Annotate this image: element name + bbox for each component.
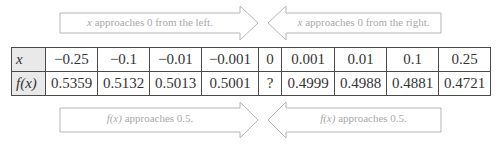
arrow-text: approaches 0.5. xyxy=(335,112,406,124)
arrow-label-fx-right: f(x) approaches 0.5. xyxy=(286,112,441,124)
table-row-x: x −0.25 −0.1 −0.01 −0.001 0 0.001 0.01 0… xyxy=(12,48,491,72)
x-cell: −0.1 xyxy=(98,48,150,72)
fx-cell: 0.5013 xyxy=(150,72,202,96)
arrow-text: approaches 0 from the left. xyxy=(92,16,213,28)
x-cell: −0.001 xyxy=(202,48,259,72)
x-cell: 0 xyxy=(259,48,282,72)
x-cell: −0.25 xyxy=(46,48,98,72)
fx-cell: 0.4999 xyxy=(282,72,335,96)
arrow-label-x-right: x approaches 0 from the right. xyxy=(286,16,441,28)
arrow-text: approaches 0.5. xyxy=(122,112,193,124)
arrow-label-x-left: x approaches 0 from the left. xyxy=(60,16,240,28)
fx-cell: 0.4988 xyxy=(335,72,387,96)
fx-cell: 0.4721 xyxy=(439,72,491,96)
variable-fx: f(x) xyxy=(107,112,122,124)
fx-cell: 0.5359 xyxy=(46,72,98,96)
arrow-label-fx-left: f(x) approaches 0.5. xyxy=(60,112,240,124)
values-table: x −0.25 −0.1 −0.01 −0.001 0 0.001 0.01 0… xyxy=(11,47,491,96)
x-cell: 0.25 xyxy=(439,48,491,72)
fx-cell: 0.5001 xyxy=(202,72,259,96)
table-row-fx: f(x) 0.5359 0.5132 0.5013 0.5001 ? 0.499… xyxy=(12,72,491,96)
x-cell: 0.01 xyxy=(335,48,387,72)
row-header-x: x xyxy=(12,48,46,72)
x-cell: −0.01 xyxy=(150,48,202,72)
x-cell: 0.001 xyxy=(282,48,335,72)
x-cell: 0.1 xyxy=(387,48,439,72)
row-header-fx: f(x) xyxy=(12,72,46,96)
fx-cell: 0.5132 xyxy=(98,72,150,96)
fx-cell: ? xyxy=(259,72,282,96)
arrow-text: approaches 0 from the right. xyxy=(302,16,429,28)
fx-cell: 0.4881 xyxy=(387,72,439,96)
variable-fx: f(x) xyxy=(320,112,335,124)
